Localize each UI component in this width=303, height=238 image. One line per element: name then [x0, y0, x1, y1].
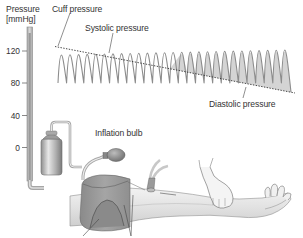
systolic-pressure-pointer	[109, 33, 113, 53]
axis-label-unit: [mmHg]	[6, 15, 35, 24]
diastolic-pressure-pointer	[243, 87, 246, 98]
label-systolic-pressure: Systolic pressure	[85, 24, 149, 33]
stethoscope	[147, 160, 176, 195]
diagram-canvas	[0, 0, 303, 238]
label-diastolic-pressure: Diastolic pressure	[209, 100, 276, 109]
axis-label-pressure: Pressure	[6, 5, 40, 14]
label-inflation-bulb: Inflation bulb	[95, 129, 142, 138]
pressure-reservoir	[41, 122, 82, 175]
tick-label-80: 80	[2, 79, 20, 87]
label-cuff-pressure: Cuff pressure	[52, 5, 102, 14]
axis-ticks	[22, 51, 27, 148]
tick-label-40: 40	[2, 112, 20, 120]
blood-pressure-diagram: Pressure [mmHg] 120 80 40 0 Cuff pressur…	[0, 0, 303, 238]
tick-label-0: 0	[2, 144, 20, 152]
tick-label-120: 120	[2, 47, 20, 55]
cuff-pressure-pointer	[58, 13, 70, 46]
